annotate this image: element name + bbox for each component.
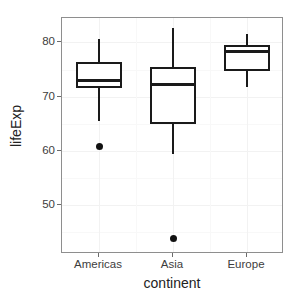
y-tick-label-80: 80 bbox=[42, 35, 55, 47]
whisker-lower-americas bbox=[98, 88, 100, 121]
y-tick-mark-70 bbox=[57, 96, 61, 97]
gridline-x-minor-2 bbox=[210, 18, 211, 252]
x-tick-mark-europe bbox=[246, 253, 247, 257]
x-axis-title: continent bbox=[61, 275, 283, 291]
gridline-x-minor-1 bbox=[136, 18, 137, 252]
x-tick-mark-americas bbox=[98, 253, 99, 257]
x-tick-label-americas: Americas bbox=[74, 258, 122, 270]
x-tick-mark-asia bbox=[172, 253, 173, 257]
y-tick-mark-60 bbox=[57, 150, 61, 151]
y-tick-label-60: 60 bbox=[42, 144, 55, 156]
outlier-point-asia-0 bbox=[170, 235, 177, 242]
median-line-europe bbox=[224, 50, 270, 53]
x-tick-label-asia: Asia bbox=[161, 258, 183, 270]
box-group-asia bbox=[150, 18, 196, 252]
box-group-europe bbox=[224, 18, 270, 252]
whisker-upper-asia bbox=[172, 28, 174, 67]
image-top-edge bbox=[0, 0, 297, 6]
whisker-upper-americas bbox=[98, 39, 100, 62]
whisker-lower-asia bbox=[172, 124, 174, 154]
x-tick-label-europe: Europe bbox=[227, 258, 264, 270]
median-line-asia bbox=[150, 83, 196, 86]
box-europe bbox=[224, 45, 270, 71]
y-tick-label-70: 70 bbox=[42, 90, 55, 102]
box-americas bbox=[76, 62, 122, 88]
whisker-lower-europe bbox=[246, 71, 248, 87]
y-tick-label-50: 50 bbox=[42, 198, 55, 210]
y-tick-mark-50 bbox=[57, 204, 61, 205]
y-axis-title: lifeExp bbox=[8, 86, 24, 166]
outlier-point-americas-0 bbox=[96, 143, 103, 150]
median-line-americas bbox=[76, 79, 122, 82]
y-tick-mark-80 bbox=[57, 41, 61, 42]
box-asia bbox=[150, 67, 196, 123]
plot-panel bbox=[61, 17, 283, 253]
whisker-upper-europe bbox=[246, 34, 248, 44]
box-group-americas bbox=[76, 18, 122, 252]
boxplot-chart: lifeExp continent 50607080AmericasAsiaEu… bbox=[0, 0, 297, 301]
